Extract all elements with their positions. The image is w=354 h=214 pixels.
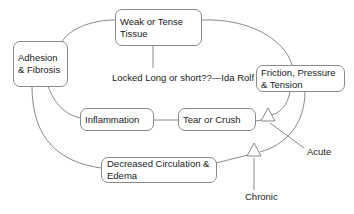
- node-label: Tear or Crush: [183, 114, 241, 126]
- node-label: Inflammation: [85, 114, 139, 126]
- connector-inflammation-to-adhesion: [48, 86, 80, 118]
- acute-pointer-line: [270, 123, 304, 148]
- acute-label: Acute: [307, 146, 331, 158]
- node-weak-or-tense-tissue: Weak or Tense Tissue: [115, 9, 202, 46]
- node-friction-pressure-tension: Friction, Pressure & Tension: [256, 65, 345, 92]
- node-label: Friction, Pressure & Tension: [261, 67, 340, 91]
- connector-weak-to-friction: [201, 20, 292, 65]
- node-label: Weak or Tense Tissue: [120, 16, 197, 40]
- node-adhesion-fibrosis: Adhesion & Fibrosis: [13, 41, 68, 87]
- node-label: Adhesion & Fibrosis: [18, 52, 62, 76]
- chronic-marker-triangle-icon: [247, 143, 261, 156]
- chronic-label: Chronic: [245, 191, 278, 203]
- connector-adhesion-to-weak: [62, 20, 115, 42]
- node-inflammation: Inflammation: [80, 108, 154, 131]
- connector-friction-to-tear-acute: [268, 91, 290, 116]
- ida-rolf-quote: Locked Long or short??—Ida Rolf: [112, 72, 254, 84]
- node-tear-or-crush: Tear or Crush: [178, 108, 256, 131]
- node-decreased-circulation-edema: Decreased Circulation & Edema: [101, 157, 217, 183]
- node-label: Decreased Circulation & Edema: [107, 158, 211, 182]
